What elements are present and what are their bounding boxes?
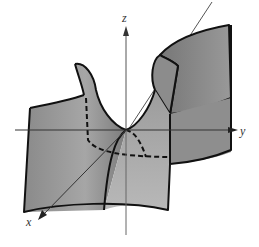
z-axis-label: z: [121, 11, 127, 25]
z-axis-arrowhead-icon: [123, 26, 129, 36]
saddle-surface-diagram: z y x: [0, 0, 259, 247]
y-axis-arrowhead-icon: [228, 127, 238, 133]
y-axis-label: y: [239, 124, 246, 138]
x-axis-label: x: [25, 215, 32, 229]
